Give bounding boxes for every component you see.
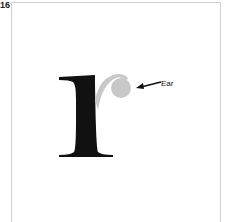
ear-label: Ear: [161, 79, 173, 88]
arrow-line: [141, 82, 161, 87]
letter-r-illustration: [0, 0, 225, 222]
ear-highlight: [111, 78, 131, 98]
arrow-head-icon: [136, 83, 144, 89]
